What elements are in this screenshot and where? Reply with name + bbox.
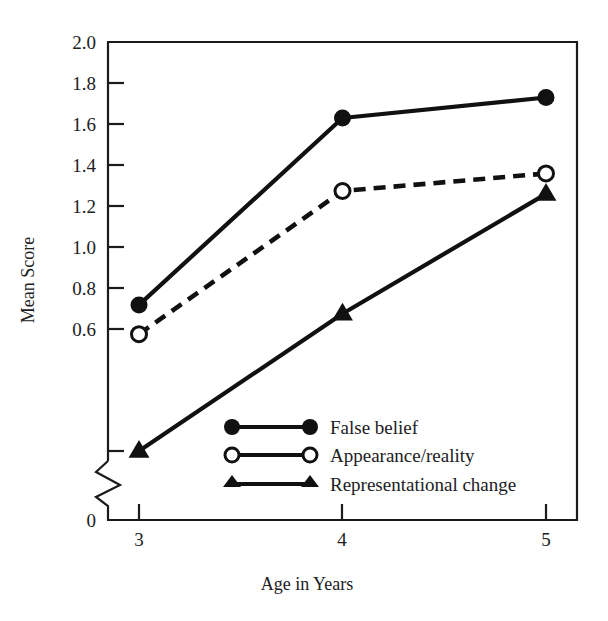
legend-marker-filled-circle-start bbox=[224, 419, 240, 435]
data-point-appearance-reality-5 bbox=[539, 166, 554, 181]
chart-figure: 2.0 1.8 1.6 1.4 1.2 1.0 0.8 0.6 0.6 0 3 … bbox=[0, 0, 608, 621]
legend-marker-triangle-start bbox=[223, 475, 241, 487]
data-point-false-belief-4 bbox=[334, 109, 351, 126]
y-tick-label-7: 0.6 bbox=[72, 319, 96, 340]
y-tick-label-6: 0.8 bbox=[72, 278, 96, 299]
y-axis-title: Mean Score bbox=[18, 237, 38, 323]
legend-marker-open-circle-end bbox=[303, 448, 317, 462]
data-point-representational-change-3 bbox=[129, 440, 150, 458]
data-point-appearance-reality-4 bbox=[335, 183, 350, 198]
data-point-false-belief-5 bbox=[538, 89, 555, 106]
data-point-appearance-reality-3 bbox=[132, 327, 147, 342]
legend-item-representational-change[interactable]: Representational change bbox=[223, 474, 516, 495]
data-point-false-belief-3 bbox=[131, 296, 148, 313]
y-axis-ticks bbox=[108, 83, 124, 451]
legend-marker-filled-circle-end bbox=[302, 419, 318, 435]
chart-legend: False belief Appearance/reality Represen… bbox=[223, 417, 516, 495]
series-lines bbox=[139, 98, 546, 452]
y-tick-label-0: 2.0 bbox=[72, 32, 96, 53]
y-tick-label-zero: 0 bbox=[87, 510, 97, 531]
y-axis-tick-labels: 2.0 1.8 1.6 1.4 1.2 1.0 0.8 0.6 0.6 0 bbox=[72, 32, 96, 531]
legend-item-appearance-reality[interactable]: Appearance/reality bbox=[225, 445, 475, 466]
data-point-representational-change-5 bbox=[536, 183, 557, 201]
legend-label-appearance-reality: Appearance/reality bbox=[330, 445, 475, 466]
legend-marker-open-circle-start bbox=[225, 448, 239, 462]
axis-break-squiggle bbox=[96, 461, 120, 520]
x-axis-ticks bbox=[139, 504, 546, 520]
x-tick-label-2: 5 bbox=[541, 529, 551, 550]
y-tick-label-5: 1.0 bbox=[72, 237, 96, 258]
x-axis-title: Age in Years bbox=[261, 574, 354, 594]
series-markers-false-belief bbox=[131, 89, 555, 313]
x-tick-label-0: 3 bbox=[134, 529, 144, 550]
x-tick-label-1: 4 bbox=[337, 529, 347, 550]
series-line-representational-change bbox=[139, 194, 546, 451]
legend-marker-triangle-end bbox=[301, 475, 319, 487]
legend-label-false-belief: False belief bbox=[330, 417, 419, 438]
y-tick-label-3: 1.4 bbox=[72, 155, 96, 176]
legend-item-false-belief[interactable]: False belief bbox=[224, 417, 419, 438]
legend-label-representational-change: Representational change bbox=[330, 474, 516, 495]
y-tick-label-1: 1.8 bbox=[72, 73, 96, 94]
line-chart-svg: 2.0 1.8 1.6 1.4 1.2 1.0 0.8 0.6 0.6 0 3 … bbox=[0, 0, 608, 621]
y-tick-label-4: 1.2 bbox=[72, 196, 96, 217]
x-axis-tick-labels: 3 4 5 bbox=[134, 529, 551, 550]
y-tick-label-2: 1.6 bbox=[72, 114, 96, 135]
series-line-false-belief bbox=[139, 98, 546, 305]
